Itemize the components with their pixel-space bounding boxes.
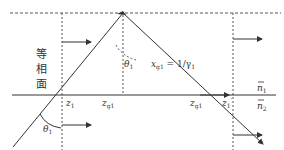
apex-marker — [117, 11, 126, 15]
xg1-label: xg1 = 1/γ1 — [151, 59, 195, 71]
n2-label: n2 — [257, 101, 267, 112]
theta-top-label: θ1 — [124, 59, 133, 70]
zg1-left-label: zg1 — [101, 98, 114, 110]
side-label-char-1: 等 — [36, 47, 47, 61]
angle-arc-top — [116, 45, 136, 60]
theta-bottom-label: θ1 — [43, 124, 52, 135]
zg1-right-label: zg1 — [189, 98, 202, 110]
side-label-char-2: 相 — [36, 63, 47, 76]
ray-reflected — [123, 13, 263, 144]
z1-label: z1 — [65, 98, 75, 109]
ray-incident — [13, 13, 123, 147]
waveguide-ray-diagram: 等 相 面 θ1 xg1 = 1/γ1 z1 zg1 zg1 z1′ n1 n2… — [0, 0, 284, 150]
z1-prime-label: z1′ — [221, 97, 233, 109]
n1-label: n1 — [257, 83, 267, 94]
side-label-char-3: 面 — [36, 78, 47, 91]
